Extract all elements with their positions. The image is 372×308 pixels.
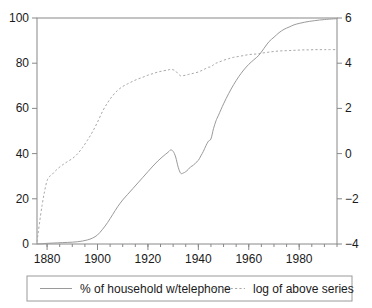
legend-label-log-series: log of above series [253, 282, 354, 296]
x-tick-label: 1880 [34, 252, 61, 266]
left-axis-ticks [32, 18, 37, 244]
right-tick-label: 4 [345, 56, 352, 70]
plot-frame [37, 18, 337, 244]
left-tick-label: 20 [16, 192, 30, 206]
right-tick-label: 2 [345, 101, 352, 115]
left-tick-label: 60 [16, 101, 30, 115]
series-group [37, 19, 337, 244]
left-tick-label: 100 [9, 11, 29, 25]
right-axis-labels: −4−20246 [345, 11, 359, 251]
right-tick-label: −2 [345, 192, 359, 206]
right-tick-label: −4 [345, 237, 359, 251]
left-tick-label: 0 [22, 237, 29, 251]
legend: % of household w/telephone log of above … [27, 276, 354, 301]
right-tick-label: 0 [345, 147, 352, 161]
left-axis-labels: 020406080100 [9, 11, 29, 251]
series-line-log-series [37, 50, 337, 242]
right-tick-label: 6 [345, 11, 352, 25]
x-tick-label: 1920 [135, 252, 162, 266]
left-tick-label: 80 [16, 56, 30, 70]
chart-canvas: 020406080100 −4−20246 188019001920194019… [0, 0, 372, 308]
right-axis-ticks [337, 18, 342, 244]
x-tick-label: 1900 [84, 252, 111, 266]
left-tick-label: 40 [16, 147, 30, 161]
legend-label-telephone-percent: % of household w/telephone [80, 282, 231, 296]
series-line-telephone-percent [37, 19, 337, 244]
x-tick-label: 1940 [185, 252, 212, 266]
x-tick-label: 1980 [286, 252, 313, 266]
x-tick-label: 1960 [235, 252, 262, 266]
telephone-penetration-chart: 020406080100 −4−20246 188019001920194019… [0, 0, 372, 308]
x-axis-labels: 188019001920194019601980 [34, 252, 313, 266]
